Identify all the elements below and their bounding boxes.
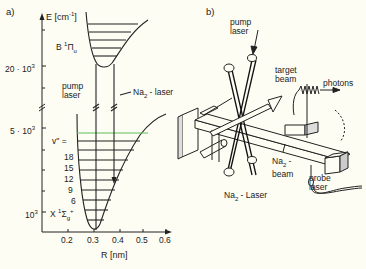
target-beam-label: targetbeam xyxy=(275,66,297,84)
rotation-arrow xyxy=(335,110,345,142)
probe-laser-label: probelaser xyxy=(309,174,331,192)
pump-laser-arrow xyxy=(251,30,258,54)
na2-beam-label: Na2 -beam xyxy=(272,157,293,179)
end-block xyxy=(325,156,340,174)
photons-label: photons xyxy=(323,79,353,88)
na2-laser-label-b: Na2 - Laser xyxy=(224,191,267,204)
left-plate xyxy=(182,108,198,157)
pump-laser-label-b: pumplaser xyxy=(230,18,251,36)
apparatus-diagram xyxy=(0,0,366,269)
